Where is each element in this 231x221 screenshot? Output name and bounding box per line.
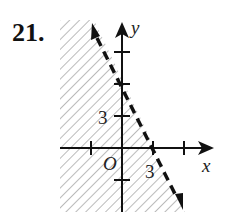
x-axis-label: x: [201, 155, 211, 176]
y-axis-label: y: [129, 17, 140, 38]
coordinate-plane: y x O 3 3: [0, 0, 231, 221]
x-tick-label: 3: [145, 161, 155, 182]
origin-label: O: [103, 153, 117, 174]
y-tick-label: 3: [98, 107, 108, 128]
